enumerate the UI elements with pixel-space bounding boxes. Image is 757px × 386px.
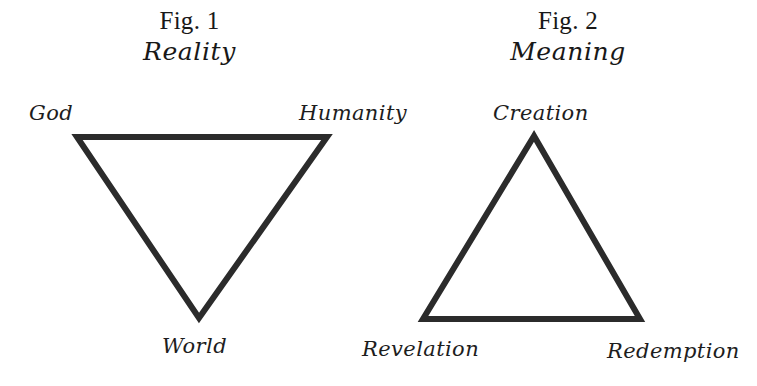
- figure-1: Fig. 1 Reality God Humanity World: [0, 0, 379, 386]
- figure-1-caption: Fig. 1 Reality: [0, 8, 379, 64]
- vertex-label-world: World: [162, 336, 227, 357]
- vertex-label-god: God: [29, 103, 73, 124]
- figure-2: Fig. 2 Meaning Creation Revelation Redem…: [379, 0, 757, 386]
- vertex-label-revelation: Revelation: [362, 339, 479, 360]
- figure-2-caption: Fig. 2 Meaning: [379, 8, 757, 64]
- figure-1-number: Fig. 1: [0, 8, 379, 33]
- figure-1-title: Reality: [0, 39, 379, 64]
- vertex-label-redemption: Redemption: [607, 341, 740, 362]
- vertex-label-creation: Creation: [493, 103, 589, 124]
- figure-2-number: Fig. 2: [379, 8, 757, 33]
- figure-2-title: Meaning: [379, 39, 757, 64]
